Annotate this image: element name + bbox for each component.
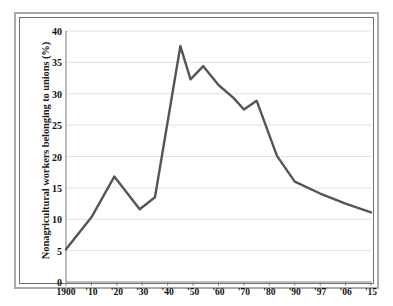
y-tick-label: 40 (52, 26, 62, 37)
y-axis-title: Nonagricultural workers belonging to uni… (40, 25, 51, 277)
x-tick-label: '60 (212, 287, 224, 297)
y-tick-label: 25 (52, 120, 62, 131)
y-tick-label: 20 (52, 151, 62, 162)
line-chart-svg (66, 31, 371, 282)
x-tick-label: '97 (314, 287, 326, 297)
plot-area: 05101520253035401900'10'20'30'40'50'60'7… (66, 31, 371, 282)
x-tick-label: '70 (238, 287, 250, 297)
y-tick-label: 5 (57, 245, 62, 256)
x-tick-label: '80 (263, 287, 275, 297)
y-tick-label: 30 (52, 88, 62, 99)
x-tick-label: '06 (340, 287, 352, 297)
x-tick-label: 1900 (57, 287, 76, 297)
figure-container: Nonagricultural workers belonging to uni… (0, 0, 393, 306)
x-tick-label: '10 (85, 287, 97, 297)
chart-frame-inner: Nonagricultural workers belonging to uni… (19, 17, 374, 284)
chart-frame-outer: Nonagricultural workers belonging to uni… (14, 12, 379, 289)
y-tick-label: 0 (57, 277, 62, 288)
x-tick-label: '20 (111, 287, 123, 297)
x-tick-label: '40 (162, 287, 174, 297)
x-tick-label: '90 (289, 287, 301, 297)
y-tick-label: 15 (52, 182, 62, 193)
x-tick-label: '30 (136, 287, 148, 297)
y-tick-label: 10 (52, 214, 62, 225)
x-tick-label: '50 (187, 287, 199, 297)
x-tick-label: '15 (365, 287, 377, 297)
y-tick-label: 35 (52, 57, 62, 68)
